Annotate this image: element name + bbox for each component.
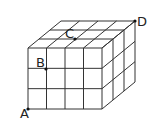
point-b-label: B (36, 55, 45, 70)
point-d-label: D (137, 14, 147, 29)
cube-diagram: ABCD (0, 0, 158, 124)
point-a-label: A (20, 106, 29, 121)
point-c-label: C (65, 26, 74, 41)
